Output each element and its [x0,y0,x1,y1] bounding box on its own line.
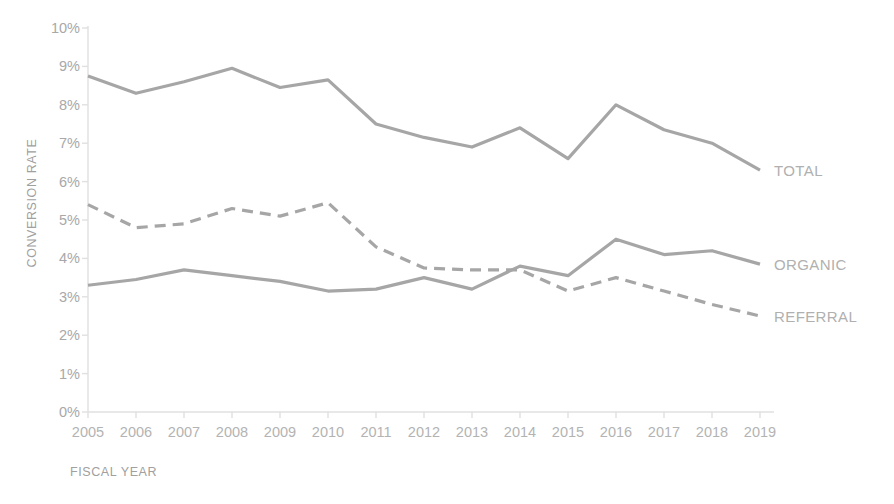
plot-area [0,0,894,504]
axis-lines [88,26,774,412]
series-line-organic [88,239,760,291]
conversion-rate-line-chart: CONVERSION RATE FISCAL YEAR 0%1%2%3%4%5%… [0,0,894,504]
series-line-referral [88,203,760,316]
series-lines [88,68,760,316]
axis-tick-marks [82,28,760,418]
series-label-referral: REFERRAL [774,308,857,325]
series-label-organic: ORGANIC [774,256,847,273]
series-line-total [88,68,760,170]
series-label-total: TOTAL [774,162,823,179]
